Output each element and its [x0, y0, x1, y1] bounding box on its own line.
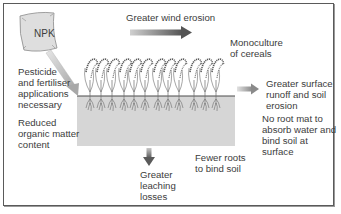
leaching-label: Greater leaching losses	[140, 169, 176, 202]
leaching-arrow-icon	[143, 148, 155, 166]
wind-erosion-label: Greater wind erosion	[126, 12, 215, 23]
npk-label: NPK	[34, 28, 55, 39]
runoff-arrow-icon	[237, 84, 259, 95]
fewer-roots-label: Fewer roots to bind soil	[195, 152, 246, 174]
root-mat-label: No root mat to absorb water and bind soi…	[262, 113, 341, 157]
runoff-label: Greater surface runoff and soil erosion	[266, 78, 333, 111]
organic-matter-label: Reduced organic matter content	[18, 117, 79, 150]
monoculture-label: Monoculture of cereals	[230, 37, 283, 59]
pesticide-label: Pesticide and fertiliser applications ne…	[18, 66, 70, 110]
wind-arrow-icon	[130, 26, 192, 39]
